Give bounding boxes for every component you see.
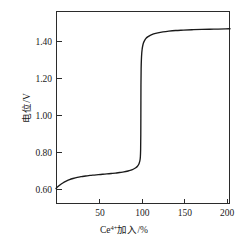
x-tick-label-200: 200	[220, 208, 235, 218]
titration-curve-figure: 1.40 1.20 1.00 0.80 0.60 50 100 150 200 …	[0, 0, 248, 251]
y-tick-label-1.20: 1.20	[35, 74, 52, 84]
x-tick-label-50: 50	[95, 208, 105, 218]
y-tick-label-0.60: 0.60	[35, 185, 52, 195]
x-axis-title-base: Ce	[100, 225, 111, 235]
y-tick-label-0.80: 0.80	[35, 148, 52, 158]
x-tick-label-150: 150	[178, 208, 193, 218]
chart-canvas: 1.40 1.20 1.00 0.80 0.60 50 100 150 200 …	[0, 0, 248, 251]
x-axis-title-rest: 加入/%	[117, 225, 148, 235]
x-tick-label-100: 100	[135, 208, 150, 218]
y-tick-label-1.00: 1.00	[35, 111, 52, 121]
x-axis-title: Ce4+加入/%	[100, 224, 148, 236]
y-axis-title: 电位/V	[21, 93, 32, 123]
y-tick-label-1.40: 1.40	[35, 37, 52, 47]
